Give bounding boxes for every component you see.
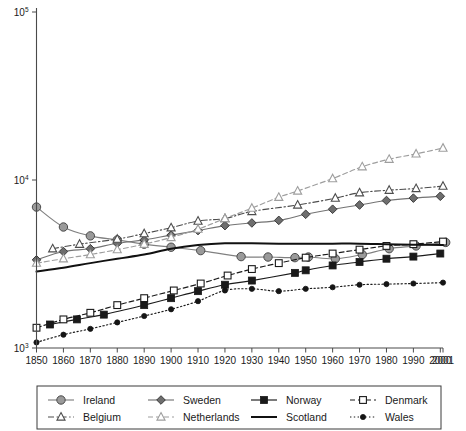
data-point-marker [169, 307, 174, 312]
data-point-marker [439, 182, 447, 190]
data-point-marker [275, 193, 283, 201]
data-point-marker [248, 277, 255, 284]
axes-layer: 1031041051850186018701880189019001910192… [14, 6, 455, 366]
data-point-marker [100, 311, 107, 318]
data-point-marker [330, 285, 335, 290]
data-point-marker [301, 210, 310, 219]
x-tick-label: 1940 [268, 355, 291, 366]
legend-item-wales[interactable]: Wales [350, 411, 414, 423]
data-point-marker [357, 282, 362, 287]
data-point-marker [60, 316, 67, 323]
data-point-marker [249, 286, 254, 291]
data-point-marker [410, 253, 417, 260]
data-point-marker [329, 250, 336, 257]
data-point-marker [114, 302, 121, 309]
data-point-marker [88, 326, 93, 331]
x-tick-label: 1970 [348, 355, 371, 366]
data-point-marker [436, 192, 445, 201]
x-tick-label: 2001 [432, 355, 455, 366]
data-point-marker [248, 219, 257, 228]
x-tick-label: 1950 [295, 355, 318, 366]
data-point-marker [355, 201, 364, 210]
data-point-marker [411, 281, 416, 286]
data-point-marker [141, 295, 148, 302]
data-point-marker [86, 232, 94, 240]
legend-item-denmark[interactable]: Denmark [350, 394, 428, 406]
data-point-marker [274, 216, 283, 225]
data-point-marker [197, 280, 204, 287]
x-tick-label: 1990 [402, 355, 425, 366]
data-point-marker [222, 288, 227, 293]
data-point-marker [437, 250, 444, 257]
legend-label-wales: Wales [385, 411, 414, 423]
legend-label-sweden: Sweden [183, 394, 221, 406]
data-point-marker [412, 184, 420, 192]
data-point-marker [276, 289, 281, 294]
data-point-marker [59, 223, 67, 231]
legend-item-scotland[interactable]: Scotland [251, 411, 327, 423]
data-point-marker [384, 282, 389, 287]
legend-label-belgium: Belgium [83, 411, 121, 423]
data-point-marker [409, 194, 418, 203]
data-point-marker [356, 259, 363, 266]
data-point-marker [440, 280, 445, 285]
data-point-marker [140, 229, 148, 237]
data-point-marker [360, 414, 365, 419]
line-chart: 1031041051850186018701880189019001910192… [0, 0, 466, 431]
data-point-marker [302, 254, 309, 261]
data-point-marker [195, 299, 200, 304]
x-tick-label: 1960 [322, 355, 345, 366]
data-point-marker [328, 205, 337, 214]
legend-layer: IrelandSwedenNorwayDenmarkBelgiumNetherl… [37, 386, 441, 429]
legend-item-ireland[interactable]: Ireland [48, 394, 115, 406]
y-tick-label: 103 [14, 342, 29, 354]
y-tick-label: 104 [14, 174, 29, 186]
data-point-marker [412, 150, 420, 158]
data-point-marker [157, 396, 166, 405]
data-point-marker [141, 302, 148, 309]
data-point-marker [221, 221, 230, 230]
data-point-marker [261, 397, 268, 404]
x-tick-label: 1980 [375, 355, 398, 366]
x-tick-label: 1900 [160, 355, 183, 366]
data-point-marker [383, 255, 390, 262]
y-tick-label: 105 [14, 6, 29, 18]
legend-item-sweden[interactable]: Sweden [148, 394, 221, 406]
legend-item-belgium[interactable]: Belgium [48, 411, 121, 423]
series-line-ireland [37, 207, 446, 259]
data-point-marker [237, 252, 245, 260]
series-wales [34, 280, 446, 345]
data-point-marker [59, 254, 67, 262]
data-point-marker [356, 246, 363, 253]
data-point-marker [73, 316, 80, 323]
series-line-wales [37, 283, 444, 343]
data-point-marker [168, 295, 175, 302]
data-point-marker [157, 413, 165, 421]
data-point-marker [115, 320, 120, 325]
data-point-marker [57, 413, 65, 421]
plot-layer [32, 144, 450, 345]
data-point-marker [382, 196, 391, 205]
data-point-marker [291, 269, 298, 276]
data-point-marker [195, 288, 202, 295]
data-point-marker [303, 286, 308, 291]
data-point-marker [275, 260, 282, 267]
data-point-marker [248, 266, 255, 273]
data-point-marker [439, 144, 447, 152]
data-point-marker [302, 267, 309, 274]
data-point-marker [197, 246, 205, 254]
legend-item-norway[interactable]: Norway [251, 394, 322, 406]
chart-root: 1031041051850186018701880189019001910192… [0, 0, 466, 431]
data-point-marker [87, 309, 94, 316]
x-tick-label: 1880 [106, 355, 129, 366]
legend-label-norway: Norway [286, 394, 322, 406]
data-point-marker [440, 238, 447, 245]
x-tick-label: 1910 [187, 355, 210, 366]
legend-label-denmark: Denmark [385, 394, 428, 406]
data-point-marker [142, 313, 147, 318]
x-tick-label: 1930 [241, 355, 264, 366]
data-point-marker [170, 287, 177, 294]
legend-item-netherlands[interactable]: Netherlands [148, 411, 240, 423]
legend-label-scotland: Scotland [286, 411, 327, 423]
x-tick-label: 1920 [214, 355, 237, 366]
